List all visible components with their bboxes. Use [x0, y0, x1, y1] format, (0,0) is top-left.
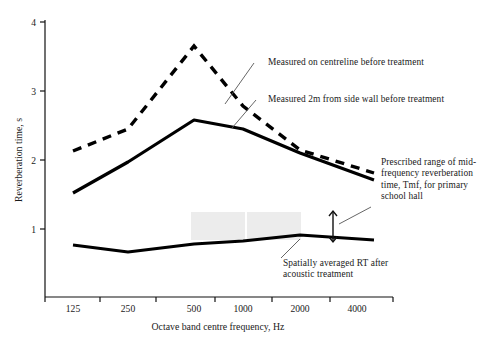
x-tick-label-2000: 2000 — [290, 303, 309, 314]
x-tick-label-125: 125 — [66, 303, 81, 314]
x-tick-label-500: 500 — [187, 303, 202, 314]
y-axis-title: Reverberation time, s — [13, 118, 24, 202]
x-tick-label-4000: 4000 — [347, 303, 366, 314]
leader-line-sidewall — [232, 100, 256, 128]
annotation-after-treatment: Spatially averaged RT after acoustic tre… — [283, 258, 401, 281]
leader-line-treated — [281, 239, 300, 258]
x-axis-title: Octave band centre frequency, Hz — [152, 321, 286, 332]
x-tick-label-250: 250 — [121, 303, 136, 314]
leader-line-prescribed — [339, 207, 371, 224]
y-tick-label-4: 4 — [31, 17, 36, 28]
annotation-prescribed-range: Prescribed range of mid-frequency reverb… — [381, 157, 491, 203]
x-tick-label-1000: 1000 — [233, 303, 252, 314]
annotation-centreline: Measured on centreline before treatment — [268, 57, 483, 68]
leader-line-centreline — [225, 63, 254, 104]
y-tick-label-3: 3 — [31, 86, 36, 97]
chart-figure: 4 3 2 1 125 250 500 1000 2000 4000 Octav… — [0, 0, 504, 347]
annotation-sidewall: Measured 2m from side wall before treatm… — [268, 94, 496, 105]
series-sidewall-before-treatment — [73, 120, 374, 193]
prescribed-range-band-low — [191, 212, 245, 240]
y-tick-label-2: 2 — [31, 155, 36, 166]
y-tick-label-1: 1 — [31, 224, 36, 235]
